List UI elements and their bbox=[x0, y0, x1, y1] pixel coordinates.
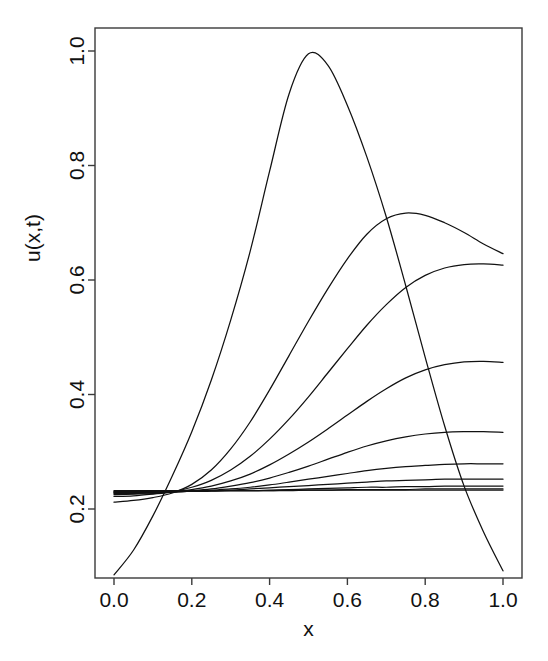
y-tick-label: 0.6 bbox=[65, 265, 88, 294]
x-tick-label: 1.0 bbox=[488, 588, 517, 611]
y-axis-title: u(x,t) bbox=[21, 214, 44, 262]
y-tick-label: 0.8 bbox=[65, 151, 88, 180]
x-tick-label: 0.2 bbox=[177, 588, 206, 611]
chart-figure: 0.00.20.40.60.81.0 0.20.40.60.81.0 x u(x… bbox=[0, 0, 548, 661]
y-tick-label: 0.2 bbox=[65, 494, 88, 523]
chart-background bbox=[0, 0, 548, 661]
line-chart-plot: 0.00.20.40.60.81.0 0.20.40.60.81.0 x u(x… bbox=[0, 0, 548, 661]
x-tick-label: 0.8 bbox=[411, 588, 440, 611]
x-axis-title: x bbox=[303, 617, 314, 640]
x-tick-label: 0.4 bbox=[255, 588, 285, 611]
y-tick-label: 0.4 bbox=[65, 380, 88, 410]
x-tick-label: 0.6 bbox=[333, 588, 362, 611]
x-tick-label: 0.0 bbox=[99, 588, 128, 611]
y-tick-label: 1.0 bbox=[65, 36, 88, 65]
curve-t9 bbox=[114, 490, 503, 491]
